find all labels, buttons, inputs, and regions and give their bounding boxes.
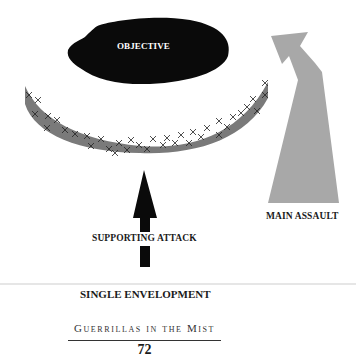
- supporting-attack-arrow: [133, 170, 157, 267]
- divider: [0, 283, 356, 285]
- main-assault-label: MAIN ASSAULT: [266, 211, 338, 221]
- figure-caption: SINGLE ENVELOPMENT: [80, 288, 211, 300]
- objective-label: OBJECTIVE: [117, 41, 170, 51]
- single-envelopment-diagram: [0, 0, 356, 357]
- footer-rule: [68, 340, 221, 341]
- supporting-attack-label: SUPPORTING ATTACK: [92, 233, 197, 243]
- main-assault-arrow: [268, 32, 339, 203]
- book-title: Guerrillas in the Mist: [68, 322, 221, 334]
- enemy-x-marks: [26, 80, 268, 156]
- enemy-line-band: [25, 82, 268, 153]
- page-number: 72: [68, 342, 221, 357]
